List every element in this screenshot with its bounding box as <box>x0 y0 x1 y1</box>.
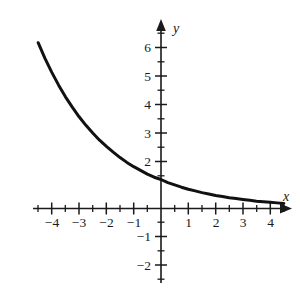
y-tick-label-3: 3 <box>137 127 151 141</box>
x-tick-label-neg4: −4 <box>43 216 61 230</box>
x-axis <box>33 204 292 214</box>
x-tick-label-2: 2 <box>210 216 223 230</box>
y-tick-label-6: 6 <box>137 41 151 55</box>
graph-figure: −4 −3 −2 −1 1 2 3 4 6 5 4 3 2 −1 −2 y x <box>0 0 300 297</box>
y-tick-label-neg1: −1 <box>128 230 151 244</box>
x-tick-label-neg1: −1 <box>125 216 143 230</box>
x-tick-label-3: 3 <box>237 216 250 230</box>
y-tick-label-neg2: −2 <box>128 259 151 273</box>
x-axis-label: x <box>283 190 289 204</box>
x-tick-label-neg3: −3 <box>70 216 88 230</box>
x-tick-label-4: 4 <box>264 216 277 230</box>
y-tick-label-2: 2 <box>137 155 151 169</box>
x-tick-label-neg2: −2 <box>98 216 116 230</box>
x-tick-label-1: 1 <box>182 216 195 230</box>
y-tick-label-4: 4 <box>137 98 151 112</box>
y-axis <box>156 19 166 283</box>
y-tick-label-5: 5 <box>137 70 151 84</box>
y-axis-label: y <box>173 22 179 36</box>
